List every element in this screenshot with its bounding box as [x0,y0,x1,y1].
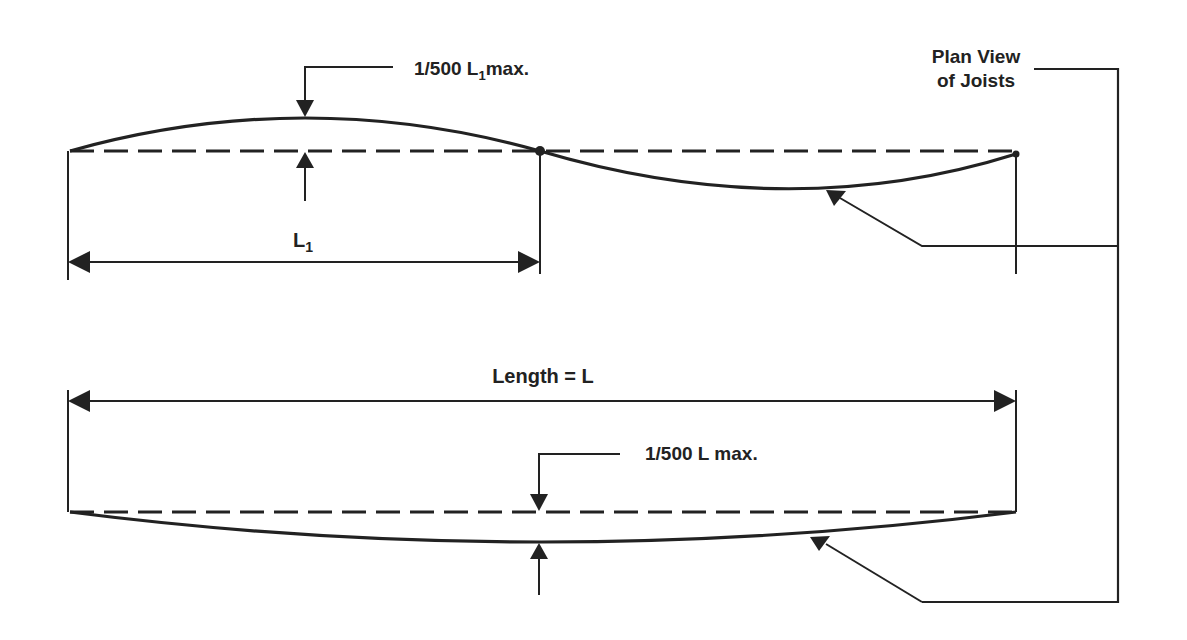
top-deflection-label: 1/500 L1max. [414,58,529,83]
top-plan-view-leader [840,198,1117,246]
bottom-joist-curve [70,512,1016,542]
bottom-deflection-leader [539,454,620,495]
bottom-plan-view-leader [826,544,922,602]
top-deflection-leader [305,67,393,100]
bottom-up-arrowhead-icon [530,543,548,559]
length-dimension: Length = L [68,365,1016,512]
l1-left-arrowhead-icon [68,251,90,273]
length-left-arrowhead-icon [68,390,90,412]
plan-view-label-line1: Plan View [932,46,1021,67]
span-label-l1: L1 [293,229,313,255]
top-deflection-down-arrowhead-icon [296,100,314,117]
plan-view-bracket [922,69,1118,602]
plan-view-label-line2: of Joists [937,70,1015,91]
top-joist-curve-downward [540,151,1016,189]
top-joist-curve-upward [70,118,540,151]
bottom-deflection-down-arrowhead-icon [530,494,548,511]
bottom-figure: 1/500 L max. [70,443,1016,602]
top-reference-up-arrowhead-icon [296,152,314,168]
length-right-arrowhead-icon [994,390,1016,412]
joist-deflection-diagram: L1 1/500 L1max. Plan View of Joists Leng… [0,0,1187,640]
bottom-deflection-label: 1/500 L max. [645,443,758,464]
top-figure: L1 1/500 L1max. [68,58,1117,280]
l1-right-arrowhead-icon [518,251,540,273]
top-sag-arrowhead-icon [826,190,846,206]
length-label: Length = L [492,365,594,387]
